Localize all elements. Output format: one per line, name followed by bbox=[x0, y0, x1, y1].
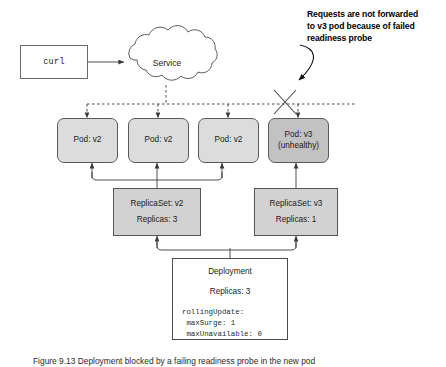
pod-v2-1-label: Pod: v2 bbox=[74, 135, 102, 146]
blocked-connection-x-icon bbox=[274, 90, 296, 114]
service-cloud-shape bbox=[129, 26, 217, 81]
code-line-max-unavailable: maxUnavailable: 0 bbox=[182, 329, 287, 340]
pod-v3-label: Pod: v3 bbox=[285, 130, 313, 141]
annotation-line-2: to v3 pod because of failed bbox=[307, 20, 418, 32]
pod-v3-status-label: (unhealthy) bbox=[278, 141, 319, 152]
pod-v2-1: Pod: v2 bbox=[57, 118, 118, 163]
edge-rs2-bus bbox=[92, 172, 222, 180]
replicaset-v2: ReplicaSet: v2 Replicas: 3 bbox=[113, 188, 201, 236]
code-line-rolling-update: rollingUpdate: bbox=[182, 307, 287, 318]
deployment-replicas: Replicas: 3 bbox=[210, 287, 251, 298]
annotation-text: Requests are not forwarded to v3 pod bec… bbox=[307, 8, 418, 45]
replicaset-v3-replicas: Replicas: 1 bbox=[276, 215, 317, 226]
pod-v2-3: Pod: v2 bbox=[198, 118, 259, 163]
annotation-line-3: readiness probe bbox=[307, 32, 418, 44]
service-label: Service bbox=[117, 58, 217, 68]
curl-client-box: curl bbox=[20, 45, 88, 79]
pod-v2-2-label: Pod: v2 bbox=[145, 135, 173, 146]
deployment-strategy-code: rollingUpdate: maxSurge: 1 maxUnavailabl… bbox=[173, 307, 287, 340]
pod-v2-2: Pod: v2 bbox=[128, 118, 189, 163]
annotation-line-1: Requests are not forwarded bbox=[307, 8, 418, 20]
edge-dep-bus bbox=[157, 242, 296, 250]
replicaset-v3-title: ReplicaSet: v3 bbox=[270, 199, 323, 210]
pod-v2-3-label: Pod: v2 bbox=[215, 135, 243, 146]
replicaset-v2-replicas: Replicas: 3 bbox=[137, 215, 178, 226]
deployment-title: Deployment bbox=[208, 267, 252, 278]
code-line-max-surge: maxSurge: 1 bbox=[182, 318, 287, 329]
curl-label: curl bbox=[43, 57, 65, 68]
deployment-box: Deployment Replicas: 3 rollingUpdate: ma… bbox=[172, 258, 288, 340]
replicaset-v3: ReplicaSet: v3 Replicas: 1 bbox=[254, 188, 338, 236]
replicaset-v2-title: ReplicaSet: v2 bbox=[131, 199, 184, 210]
figure-caption: Figure 9.13 Deployment blocked by a fail… bbox=[33, 356, 315, 367]
pod-v3-unhealthy: Pod: v3 (unhealthy) bbox=[268, 118, 329, 163]
annotation-arrow bbox=[299, 45, 313, 80]
